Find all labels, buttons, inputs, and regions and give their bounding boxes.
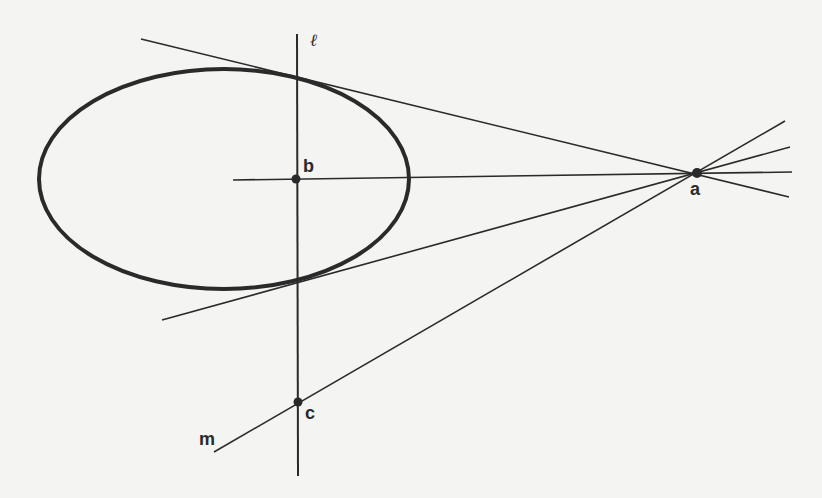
diagram-canvas: ℓ b a c m (0, 0, 822, 498)
label-point-c: c (305, 404, 315, 422)
label-point-a: a (690, 180, 700, 198)
diagram-svg (0, 0, 822, 498)
label-line-m: m (199, 430, 215, 448)
line-l (297, 34, 298, 476)
label-line-l: ℓ (310, 32, 317, 49)
horizontal-line-ab (233, 172, 792, 180)
point-c (294, 398, 303, 407)
point-a (692, 168, 702, 178)
label-point-b: b (303, 157, 314, 175)
point-b (292, 175, 301, 184)
